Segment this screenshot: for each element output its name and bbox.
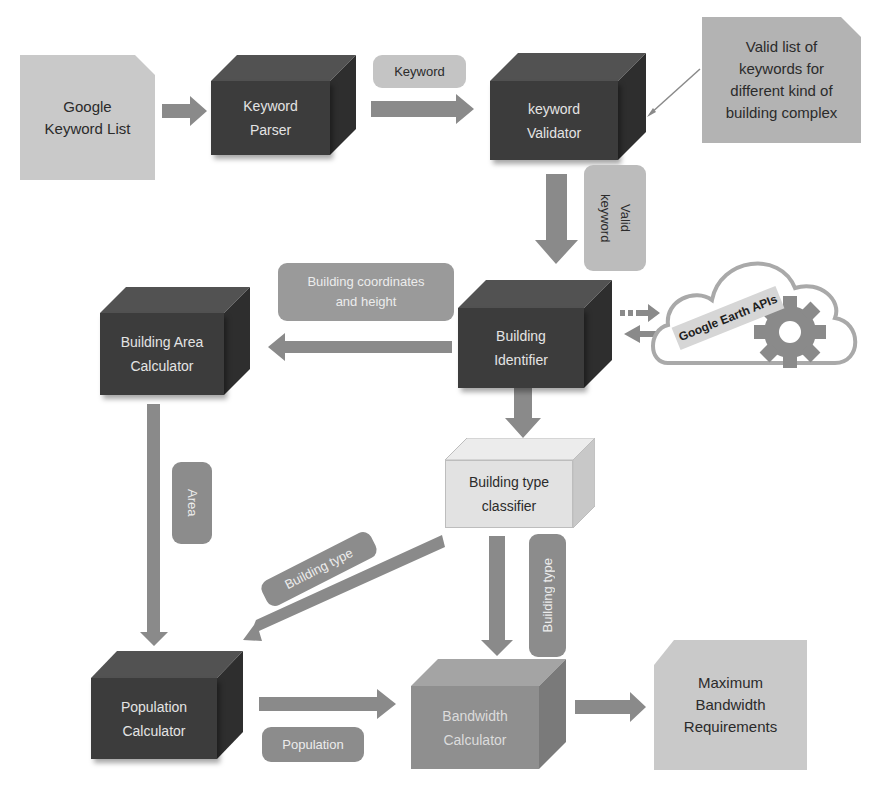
arrow-validator-to-identifier xyxy=(535,174,578,264)
cube-front: Population Calculator xyxy=(91,678,217,759)
node-label: Calculator xyxy=(121,354,204,378)
node-label: Keyword List xyxy=(45,118,131,140)
max-bandwidth-doc-node: Maximum Bandwidth Requirements xyxy=(654,640,807,770)
arrow-population-to-bandwidth xyxy=(259,689,396,719)
keyword-parser-node: Keyword Parser xyxy=(211,55,356,155)
node-label: keyword xyxy=(527,97,581,121)
edge-label-text: Building type xyxy=(538,558,558,632)
cube-side xyxy=(539,659,566,773)
edge-label-text: keyword xyxy=(595,194,615,242)
cube-side xyxy=(618,53,646,164)
node-label: Requirements xyxy=(684,716,777,738)
edge-label-text: Population xyxy=(282,735,343,755)
pointer-valid-list-to-validator xyxy=(650,69,700,114)
cube-front: Bandwidth Calculator xyxy=(411,686,539,769)
arrow-to-cloud xyxy=(636,304,660,322)
node-label: Population xyxy=(121,695,187,719)
node-label: Building xyxy=(494,324,548,348)
node-label: Bandwidth xyxy=(442,704,507,728)
cube-front: keyword Validator xyxy=(490,81,618,160)
node-label: Bandwidth xyxy=(684,694,777,716)
arrow-identifier-to-classifier xyxy=(505,388,541,438)
node-label: Validator xyxy=(527,121,581,145)
arrow-parser-to-validator xyxy=(371,94,474,124)
edge-label-population: Population xyxy=(262,727,364,762)
node-label: different kind of xyxy=(726,80,838,102)
edge-label-coordinates: Building coordinates and height xyxy=(278,263,454,321)
cube-front: Keyword Parser xyxy=(211,81,330,155)
building-identifier-node: Building Identifier xyxy=(458,280,612,388)
bandwidth-calculator-node: Bandwidth Calculator xyxy=(411,659,566,769)
arrow-classifier-to-bandwidth xyxy=(481,536,513,656)
node-label: Maximum xyxy=(684,672,777,694)
edge-label-text: Building coordinates xyxy=(307,272,424,292)
edge-label-area: Area xyxy=(172,462,212,544)
cube-side xyxy=(573,438,595,532)
edge-label-keyword: Keyword xyxy=(373,55,466,88)
edge-label-building-type-vertical: Building type xyxy=(529,534,566,657)
cube-side xyxy=(330,55,356,159)
building-type-classifier-node: Building type classifier xyxy=(445,438,595,528)
node-label: Keyword xyxy=(243,94,297,118)
arrow-area-to-population xyxy=(140,404,168,646)
node-label: Google xyxy=(45,96,131,118)
node-label: Building type xyxy=(469,470,549,494)
valid-keywords-doc-node: Valid list of keywords for different kin… xyxy=(702,17,861,143)
node-label: classifier xyxy=(469,494,549,518)
node-label: Valid list of xyxy=(726,36,838,58)
edge-label-text: Keyword xyxy=(394,62,445,82)
cube-side xyxy=(217,651,243,763)
building-area-calculator-node: Building Area Calculator xyxy=(100,287,250,395)
google-keyword-list-node: Google Keyword List xyxy=(20,55,155,180)
arrow-list-to-parser xyxy=(162,96,207,126)
edge-label-valid-keyword: Valid keyword xyxy=(584,165,646,271)
node-label: Identifier xyxy=(494,348,548,372)
cube-front: Building Identifier xyxy=(458,308,584,388)
arrow-bandwidth-to-output xyxy=(575,692,646,722)
cube-side xyxy=(224,287,250,399)
cube-front: Building type classifier xyxy=(445,460,573,528)
cube-side xyxy=(584,280,612,392)
cube-front: Building Area Calculator xyxy=(100,313,224,395)
edge-label-text: and height xyxy=(307,292,424,312)
node-label: Calculator xyxy=(442,728,507,752)
population-calculator-node: Population Calculator xyxy=(91,651,243,759)
node-label: Parser xyxy=(243,118,297,142)
node-label: Calculator xyxy=(121,719,187,743)
node-label: Building Area xyxy=(121,330,204,354)
arrow-identifier-to-area xyxy=(268,333,452,361)
keyword-validator-node: keyword Validator xyxy=(490,53,646,160)
node-label: keywords for xyxy=(726,58,838,80)
edge-label-text: Valid xyxy=(615,194,635,242)
node-label: building complex xyxy=(726,102,838,124)
edge-label-text: Area xyxy=(182,489,202,516)
